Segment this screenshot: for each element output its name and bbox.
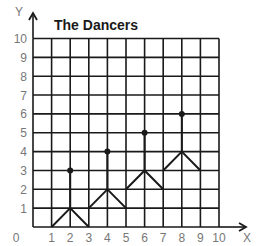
x-tick-label: 5 (123, 231, 130, 245)
x-tick-label: 4 (104, 231, 111, 245)
dancer-head-point (142, 130, 148, 136)
x-tick-label: 9 (197, 231, 204, 245)
dancer-head-point (179, 111, 185, 117)
y-tick-label: 1 (20, 202, 27, 216)
y-tick-label: 2 (20, 183, 27, 197)
x-tick-label: 2 (67, 231, 74, 245)
x-tick-label: 6 (141, 231, 148, 245)
dancer-head-point (104, 149, 110, 155)
x-tick-label: 10 (212, 231, 226, 245)
y-tick-label: 4 (20, 145, 27, 159)
y-axis-label: Y (15, 5, 23, 19)
x-tick-label: 8 (178, 231, 185, 245)
x-axis-label: X (243, 231, 251, 245)
origin-label: 0 (13, 231, 20, 245)
y-tick-label: 5 (20, 126, 27, 140)
y-tick-label: 7 (20, 89, 27, 103)
y-tick-label: 8 (20, 70, 27, 84)
dancer-head-point (67, 167, 73, 173)
chart-canvas: 12345678910123456789100XY (0, 0, 258, 246)
y-tick-label: 6 (20, 107, 27, 121)
x-tick-label: 1 (48, 231, 55, 245)
y-tick-label: 9 (20, 51, 27, 65)
y-tick-label: 10 (14, 32, 28, 46)
x-tick-label: 7 (160, 231, 167, 245)
y-tick-label: 3 (20, 164, 27, 178)
x-tick-label: 3 (85, 231, 92, 245)
